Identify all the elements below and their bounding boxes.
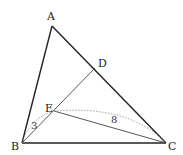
measure-ec: 8 [111, 114, 117, 125]
label-a: A [46, 10, 56, 23]
segment-ec [54, 111, 166, 143]
label-c: C [168, 140, 176, 153]
triangle-diagram: A B C D E 3 8 [0, 0, 183, 155]
side-ac [52, 26, 166, 143]
measure-be: 3 [31, 120, 37, 131]
label-b: B [11, 140, 19, 153]
label-d: D [98, 57, 107, 70]
segment-bd [22, 68, 95, 143]
label-e: E [45, 102, 53, 115]
